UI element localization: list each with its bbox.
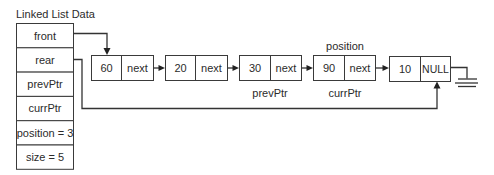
node-link: next (201, 62, 222, 74)
field-front-label: front (34, 30, 56, 42)
arrowhead-icon (383, 65, 390, 71)
arrowhead-icon (233, 65, 240, 71)
arrowhead-icon (434, 82, 441, 89)
position-annotation: position (326, 40, 364, 52)
node-10: 10 NULL (390, 57, 451, 82)
node-link: next (276, 62, 297, 74)
currptr-annotation: currPtr (329, 87, 362, 99)
node-30: 30 next (240, 56, 302, 81)
node-value: 30 (249, 62, 261, 74)
arrowhead-icon (307, 65, 314, 71)
ground-icon (451, 68, 479, 87)
next-arrow (228, 65, 240, 71)
next-arrow (376, 65, 390, 71)
field-currptr-label: currPtr (29, 102, 62, 114)
prevptr-annotation: prevPtr (252, 87, 288, 99)
node-value: 90 (323, 62, 335, 74)
linked-list-diagram: Linked List Data front rear prevPtr curr… (0, 0, 494, 175)
list-data-table: front rear prevPtr currPtr position = 3 … (17, 24, 74, 170)
node-20: 20 next (166, 56, 228, 81)
arrowhead-icon (159, 65, 166, 71)
arrowhead-icon (104, 48, 111, 55)
front-pointer-arrow (74, 34, 111, 56)
field-position-label: position = 3 (17, 127, 74, 139)
node-value: 20 (174, 62, 186, 74)
next-arrow (154, 65, 166, 71)
node-link: next (350, 62, 371, 74)
node-link: next (127, 62, 148, 74)
node-90: 90 next (314, 56, 376, 81)
node-60: 60 next (92, 56, 154, 81)
field-prevptr-label: prevPtr (27, 78, 63, 90)
node-value: 60 (100, 62, 112, 74)
field-size-label: size = 5 (26, 151, 64, 163)
diagram-title: Linked List Data (16, 8, 96, 20)
node-value: 10 (399, 63, 411, 75)
next-arrow (302, 65, 314, 71)
node-link: NULL (422, 63, 449, 75)
field-rear-label: rear (35, 54, 55, 66)
